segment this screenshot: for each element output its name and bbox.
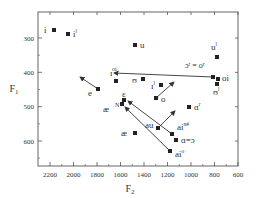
data-marker xyxy=(133,43,137,47)
annotation: N xyxy=(115,102,120,108)
point-label: u xyxy=(140,40,145,50)
data-marker xyxy=(168,149,172,153)
x-tick-label: 1200 xyxy=(161,171,176,179)
data-marker xyxy=(215,55,219,59)
x-tick-label: 2200 xyxy=(43,171,58,179)
x-axis-title: F2 xyxy=(125,183,135,196)
x-tick-label: 1400 xyxy=(137,171,152,179)
data-marker xyxy=(52,28,56,32)
data-marker xyxy=(141,77,145,81)
data-marker xyxy=(156,126,160,130)
data-marker xyxy=(159,83,163,87)
y-axis-title: F1 xyxy=(9,83,19,96)
data-marker xyxy=(66,32,70,36)
data-marker xyxy=(170,132,174,136)
point-label: ɑ=ɔ xyxy=(181,135,195,145)
x-tick-label: 800 xyxy=(209,171,220,179)
point-label: o xyxy=(161,94,166,104)
y-axis: 300400500600 xyxy=(24,35,239,159)
annotation: oi xyxy=(112,66,117,72)
data-marker xyxy=(174,138,178,142)
data-marker xyxy=(96,87,100,91)
point-label: ʊ xyxy=(132,75,137,85)
y-tick-label: 400 xyxy=(24,69,35,77)
point-label: ε xyxy=(122,89,126,99)
data-marker xyxy=(216,77,220,81)
point-label: il xyxy=(73,28,78,39)
point-label: æ xyxy=(103,104,109,114)
point-label: au xyxy=(145,120,154,130)
x-tick-label: 2000 xyxy=(67,171,82,179)
y-tick-label: 300 xyxy=(24,35,35,43)
point-label: ain# xyxy=(177,121,189,132)
point-label: ɑr xyxy=(194,101,201,112)
point-label: ʊl xyxy=(213,86,220,97)
point-label: aio xyxy=(175,148,185,159)
data-marker xyxy=(114,79,118,83)
x-tick-label: 1800 xyxy=(90,171,105,179)
data-points: iileɪuʊɪloæauain#ɑ=ɔaioɑruloiʊlεæ xyxy=(44,25,230,159)
y-tick-label: 500 xyxy=(24,103,35,111)
point-label: i xyxy=(44,25,47,35)
data-marker xyxy=(211,75,215,79)
y-tick-label: 600 xyxy=(24,138,35,146)
point-label: æ xyxy=(121,128,127,138)
point-label: e xyxy=(88,88,92,98)
x-tick-label: 600 xyxy=(233,171,244,179)
x-tick-label: 1600 xyxy=(114,171,129,179)
x-tick-label: 1000 xyxy=(184,171,199,179)
point-label: ɪl xyxy=(151,80,156,91)
annotation: ɔʳ = oʳ xyxy=(185,61,205,70)
data-marker xyxy=(154,96,158,100)
point-label: ul xyxy=(211,41,218,52)
point-label: oi xyxy=(222,73,230,83)
data-marker xyxy=(133,131,137,135)
data-marker xyxy=(187,105,191,109)
vowel-formant-chart: 2200200018001600140012001000800600 30040… xyxy=(0,0,258,198)
data-marker xyxy=(120,102,124,106)
